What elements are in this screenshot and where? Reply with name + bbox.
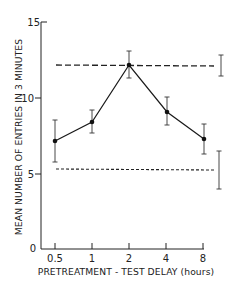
error-bars xyxy=(53,51,207,162)
data-point xyxy=(90,120,95,125)
y-tick-5: 5 xyxy=(28,169,34,180)
y-axis-title: MEAN NUMBER OF ENTRIES IN 3 MINUTES xyxy=(13,39,24,235)
x-tick-8: 8 xyxy=(200,253,206,264)
x-tick-4: 4 xyxy=(163,253,169,264)
line-chart: 15 10 5 0 MEAN NUMBER OF ENTRIES IN 3 MI… xyxy=(0,0,233,287)
y-tick-0: 0 xyxy=(30,243,36,254)
upper-reference-line xyxy=(56,55,224,76)
data-point xyxy=(165,110,170,115)
data-point xyxy=(53,139,58,144)
data-point xyxy=(202,137,207,142)
data-point xyxy=(127,63,132,68)
treatment-series xyxy=(53,51,207,162)
x-axis-title: PRETREATMENT - TEST DELAY (hours) xyxy=(38,266,214,277)
x-tick-2: 2 xyxy=(126,253,132,264)
x-tick-1: 1 xyxy=(89,253,95,264)
y-tick-15: 15 xyxy=(27,17,40,28)
lower-reference-line xyxy=(56,151,222,189)
y-axis: 15 10 5 0 MEAN NUMBER OF ENTRIES IN 3 MI… xyxy=(13,17,47,254)
x-axis: 0.5 1 2 4 8 PRETREATMENT - TEST DELAY (h… xyxy=(38,243,214,277)
x-tick-0.5: 0.5 xyxy=(47,253,63,264)
